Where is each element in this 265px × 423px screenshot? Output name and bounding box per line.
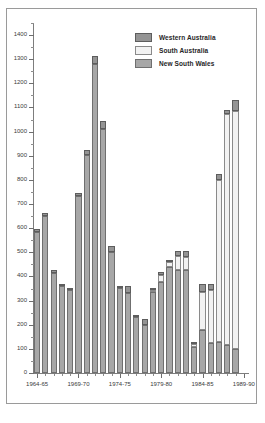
- bar-segment-western-australia: [125, 286, 131, 294]
- bar-segment-western-australia: [232, 100, 238, 112]
- bar-1974-75: [117, 286, 123, 373]
- y-tick-label: 0: [24, 369, 27, 376]
- bar-1977-78: [142, 319, 148, 373]
- plot-area: [33, 23, 248, 373]
- bar-segment-new-south-wales: [224, 345, 230, 373]
- x-tick-mark-minor: [227, 374, 228, 376]
- legend-swatch-western-australia: [135, 33, 152, 42]
- y-tick-label: 1300: [14, 55, 27, 62]
- y-axis-tick: 0: [29, 373, 34, 374]
- bar-1980-81: [166, 260, 172, 373]
- bar-1970-71: [84, 150, 90, 373]
- bar-1969-70: [75, 193, 81, 373]
- x-tick-mark-minor: [54, 374, 55, 376]
- y-tick-label: 700: [17, 200, 27, 207]
- bar-segment-new-south-wales: [100, 129, 106, 373]
- bar-segment-new-south-wales: [199, 330, 205, 373]
- bar-1976-77: [133, 315, 139, 373]
- bar-1988-89: [232, 100, 238, 373]
- x-tick-mark-minor: [70, 374, 71, 376]
- x-tick-mark: [120, 374, 121, 378]
- bar-segment-new-south-wales: [216, 342, 222, 373]
- y-tick-label: 1400: [14, 31, 27, 38]
- x-tick-mark-minor: [87, 374, 88, 376]
- x-tick-label: 1969-70: [67, 380, 89, 388]
- bar-segment-new-south-wales: [166, 267, 172, 373]
- x-tick-mark-minor: [103, 374, 104, 376]
- bar-segment-new-south-wales: [75, 196, 81, 373]
- bar-segment-new-south-wales: [175, 270, 181, 373]
- bar-segment-south-australia: [199, 292, 205, 329]
- chart-figure: 0100200300400500600700800900100011001200…: [6, 8, 257, 404]
- bar-segment-new-south-wales: [67, 290, 73, 373]
- bar-segment-new-south-wales: [59, 286, 65, 373]
- x-tick-mark-minor: [145, 374, 146, 376]
- bar-1987-88: [224, 110, 230, 373]
- bar-segment-new-south-wales: [183, 270, 189, 373]
- y-tick-label: 800: [17, 176, 27, 183]
- x-tick-mark-minor: [128, 374, 129, 376]
- x-tick-mark-minor: [62, 374, 63, 376]
- bar-segment-new-south-wales: [42, 216, 48, 373]
- x-tick-mark-minor: [194, 374, 195, 376]
- bar-1982-83: [183, 251, 189, 373]
- legend-item-south-australia: South Australia: [135, 44, 216, 57]
- x-tick-mark-minor: [136, 374, 137, 376]
- bar-segment-south-australia: [216, 180, 222, 342]
- bar-segment-new-south-wales: [208, 343, 214, 373]
- x-tick-mark: [78, 374, 79, 378]
- bar-1967-68: [59, 284, 65, 373]
- legend-label-western-australia: Western Australia: [159, 34, 216, 41]
- bar-1972-73: [100, 121, 106, 373]
- bar-segment-new-south-wales: [133, 317, 139, 373]
- bar-segment-south-australia: [224, 114, 230, 346]
- bar-segment-south-australia: [232, 111, 238, 349]
- x-tick-mark-minor: [236, 374, 237, 376]
- bar-segment-new-south-wales: [51, 273, 57, 373]
- bar-1973-74: [108, 246, 114, 373]
- y-tick-label: 1000: [14, 128, 27, 135]
- legend-swatch-south-australia: [135, 46, 152, 55]
- x-tick-mark-minor: [219, 374, 220, 376]
- bar-1965-66: [42, 213, 48, 373]
- x-tick-mark: [244, 374, 245, 378]
- bar-1983-84: [191, 342, 197, 373]
- x-tick-mark-minor: [95, 374, 96, 376]
- x-axis-line: [33, 373, 249, 374]
- bar-segment-new-south-wales: [150, 292, 156, 373]
- y-tick-label: 200: [17, 321, 27, 328]
- chart-legend: Western Australia South Australia New So…: [135, 31, 216, 70]
- y-tick-label: 900: [17, 152, 27, 159]
- x-tick-mark: [161, 374, 162, 378]
- bar-segment-new-south-wales: [92, 64, 98, 373]
- bar-1964-65: [34, 229, 40, 373]
- bar-segment-new-south-wales: [125, 293, 131, 373]
- bar-1985-86: [208, 284, 214, 373]
- bar-1968-69: [67, 288, 73, 373]
- bar-segment-new-south-wales: [191, 347, 197, 373]
- bar-1984-85: [199, 284, 205, 373]
- x-tick-mark: [37, 374, 38, 378]
- legend-swatch-new-south-wales: [135, 59, 152, 68]
- bar-segment-western-australia: [92, 56, 98, 64]
- bar-segment-new-south-wales: [34, 232, 40, 373]
- bar-segment-south-australia: [208, 290, 214, 343]
- legend-item-new-south-wales: New South Wales: [135, 57, 216, 70]
- y-tick-label: 100: [17, 345, 27, 352]
- bar-segment-south-australia: [183, 257, 189, 270]
- x-tick-mark-minor: [186, 374, 187, 376]
- x-tick-mark-minor: [211, 374, 212, 376]
- bar-1979-80: [158, 272, 164, 373]
- bar-segment-new-south-wales: [232, 349, 238, 373]
- x-tick-mark-minor: [178, 374, 179, 376]
- x-tick-mark-minor: [153, 374, 154, 376]
- x-tick-label: 1974-75: [109, 380, 131, 388]
- bar-1986-87: [216, 174, 222, 373]
- bar-segment-new-south-wales: [84, 155, 90, 373]
- bar-segment-new-south-wales: [108, 252, 114, 373]
- bar-segment-western-australia: [199, 284, 205, 292]
- x-tick-mark-minor: [112, 374, 113, 376]
- x-tick-label: 1989-90: [233, 380, 255, 388]
- bar-segment-south-australia: [175, 256, 181, 270]
- legend-label-new-south-wales: New South Wales: [159, 60, 214, 67]
